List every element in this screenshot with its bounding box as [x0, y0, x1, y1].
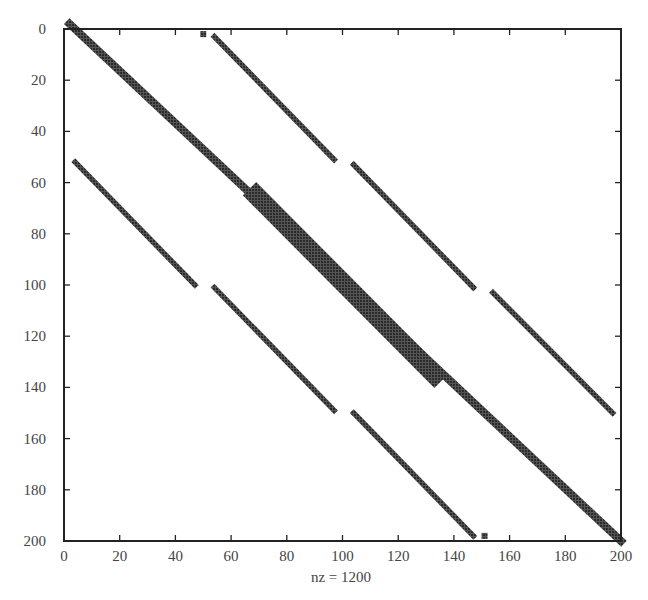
- y-tick-label: 180: [24, 482, 47, 498]
- lower-stripe-1: [75, 162, 195, 285]
- y-tick-label: 160: [24, 431, 47, 447]
- y-tick-label: 120: [24, 328, 47, 344]
- x-tick-label: 80: [279, 548, 294, 564]
- x-tick-label: 200: [610, 548, 633, 564]
- x-tick-label: 20: [112, 548, 127, 564]
- x-tick-label: 120: [387, 548, 410, 564]
- plot-data-layer: [70, 24, 621, 541]
- y-tick-label: 200: [24, 533, 47, 549]
- upper-stripe-2: [354, 165, 474, 288]
- y-tick-label: 100: [24, 277, 47, 293]
- sparsity-plot: 020406080100120140160180200 020406080100…: [0, 0, 648, 600]
- x-tick-label: 180: [554, 548, 577, 564]
- x-tick-label: 100: [331, 548, 354, 564]
- lower-stripe-2: [214, 288, 334, 411]
- x-tick-label: 60: [224, 548, 239, 564]
- x-tick-label: 160: [498, 548, 521, 564]
- y-tick-label: 40: [31, 123, 46, 139]
- y-tick-label: 140: [24, 379, 47, 395]
- x-tick-label: 0: [60, 548, 68, 564]
- y-tick-label: 20: [31, 72, 46, 88]
- y-tick-label: 80: [31, 226, 46, 242]
- upper-stripe-3: [493, 293, 613, 413]
- y-tick-label: 0: [39, 21, 47, 37]
- isolated-block: [200, 31, 206, 37]
- isolated-block: [482, 533, 488, 539]
- lower-stripe-3: [354, 413, 474, 536]
- upper-stripe-1: [214, 37, 334, 160]
- x-axis-label: nz = 1200: [311, 569, 371, 585]
- y-tick-label: 60: [31, 175, 46, 191]
- x-tick-label: 140: [443, 548, 466, 564]
- x-tick-label: 40: [168, 548, 183, 564]
- y-tick-labels: 020406080100120140160180200: [24, 21, 47, 549]
- x-tick-labels: 020406080100120140160180200: [60, 548, 632, 564]
